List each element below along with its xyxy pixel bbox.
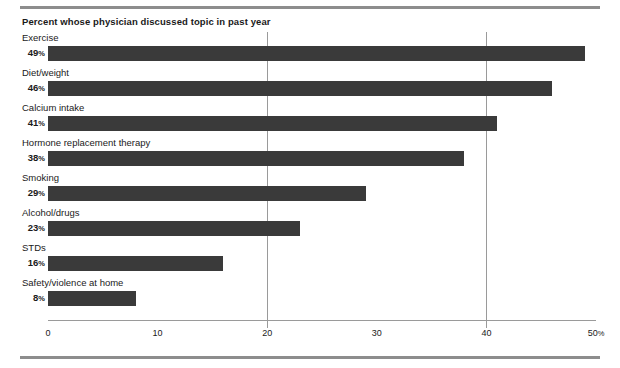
category-label: Alcohol/drugs	[22, 207, 80, 218]
value-number: 16	[28, 257, 39, 268]
bar	[48, 46, 585, 61]
bottom-rule	[20, 356, 600, 359]
bar	[48, 221, 300, 236]
bar	[48, 81, 552, 96]
category-label: Diet/weight	[22, 67, 69, 78]
value-label: 41%	[0, 117, 45, 128]
percent-sign: %	[38, 119, 45, 128]
value-label: 29%	[0, 187, 45, 198]
value-number: 49	[28, 47, 39, 58]
bar	[48, 186, 366, 201]
percent-sign: %	[38, 84, 45, 93]
bar-chart-figure: Percent whose physician discussed topic …	[0, 0, 620, 368]
category-label: Smoking	[22, 172, 59, 183]
percent-sign: %	[38, 189, 45, 198]
value-label: 46%	[0, 82, 45, 93]
percent-sign: %	[38, 154, 45, 163]
bar-row: Hormone replacement therapy38%	[0, 137, 620, 172]
category-label: Safety/violence at home	[22, 277, 123, 288]
value-number: 38	[28, 152, 39, 163]
bar-row: Safety/violence at home8%	[0, 277, 620, 312]
value-number: 41	[28, 117, 39, 128]
plot-area: Exercise49%Diet/weight46%Calcium intake4…	[0, 32, 620, 320]
percent-sign: %	[38, 294, 45, 303]
bar-row: STDs16%	[0, 242, 620, 277]
bar	[48, 151, 464, 166]
bar-row: Diet/weight46%	[0, 67, 620, 102]
value-number: 46	[28, 82, 39, 93]
value-number: 29	[28, 187, 39, 198]
top-rule	[20, 6, 600, 9]
value-label: 23%	[0, 222, 45, 233]
percent-sign: %	[38, 259, 45, 268]
category-label: Exercise	[22, 32, 58, 43]
percent-sign: %	[38, 224, 45, 233]
bar	[48, 291, 136, 306]
value-number: 23	[28, 222, 39, 233]
category-label: Calcium intake	[22, 102, 84, 113]
bar	[48, 116, 497, 131]
bar-row: Smoking29%	[0, 172, 620, 207]
category-label: STDs	[22, 242, 46, 253]
chart-title: Percent whose physician discussed topic …	[22, 16, 271, 27]
value-label: 38%	[0, 152, 45, 163]
bar-rows: Exercise49%Diet/weight46%Calcium intake4…	[0, 32, 620, 312]
bar	[48, 256, 223, 271]
value-label: 16%	[0, 257, 45, 268]
value-label: 8%	[0, 292, 45, 303]
category-label: Hormone replacement therapy	[22, 137, 150, 148]
percent-sign: %	[38, 49, 45, 58]
value-label: 49%	[0, 47, 45, 58]
bar-row: Calcium intake41%	[0, 102, 620, 137]
bar-row: Exercise49%	[0, 32, 620, 67]
bar-row: Alcohol/drugs23%	[0, 207, 620, 242]
